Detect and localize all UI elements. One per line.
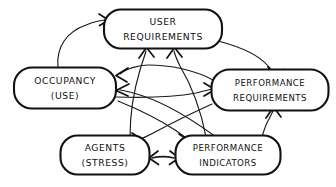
diagram-svg: USER REQUIREMENTS OCCUPANCY (USE) PERFOR…	[0, 0, 336, 187]
node-occupancy-use-line2: (USE)	[51, 90, 79, 101]
node-performance-indicators-line1: PERFORMANCE	[193, 143, 263, 153]
node-performance-indicators[interactable]: PERFORMANCE INDICATORS	[176, 136, 281, 175]
node-performance-requirements[interactable]: PERFORMANCE REQUIREMENTS	[212, 70, 329, 111]
node-performance-requirements-line2: REQUIREMENTS	[233, 93, 307, 103]
node-user-requirements[interactable]: USER REQUIREMENTS	[104, 10, 222, 49]
node-agents-stress-line2: (STRESS)	[82, 157, 129, 168]
node-user-requirements-line1: USER	[150, 16, 177, 27]
node-layer: USER REQUIREMENTS OCCUPANCY (USE) PERFOR…	[14, 10, 329, 175]
edge-occupancy-to-user-requirements[interactable]	[58, 14, 109, 67]
node-agents-stress[interactable]: AGENTS (STRESS)	[61, 136, 150, 175]
node-performance-requirements-line1: PERFORMANCE	[235, 78, 305, 88]
node-occupancy-use[interactable]: OCCUPANCY (USE)	[14, 68, 116, 109]
edge-agents-to-user-requirements[interactable]	[130, 48, 154, 138]
node-performance-indicators-line2: INDICATORS	[199, 158, 256, 168]
edge-performance-requirements-to-occupancy[interactable]	[116, 65, 213, 82]
edge-occupancy-to-performance-requirements[interactable]	[116, 83, 215, 97]
node-occupancy-use-line1: OCCUPANCY	[34, 75, 96, 86]
node-agents-stress-line1: AGENTS	[85, 142, 126, 153]
node-user-requirements-line2: REQUIREMENTS	[123, 31, 203, 42]
diagram-canvas: USER REQUIREMENTS OCCUPANCY (USE) PERFOR…	[0, 0, 336, 187]
